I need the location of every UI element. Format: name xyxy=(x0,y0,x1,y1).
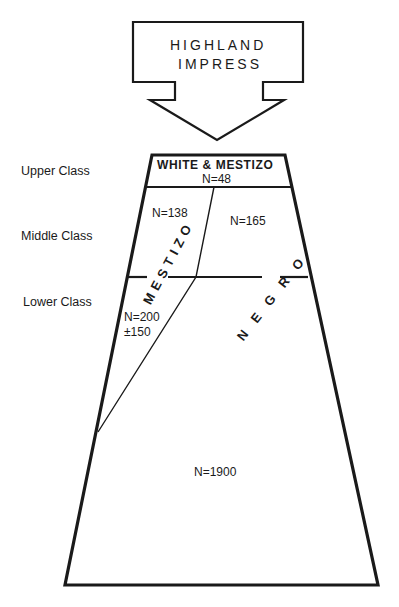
lower-class-label: Lower Class xyxy=(23,295,92,309)
white-mestizo-count: N=48 xyxy=(202,172,231,186)
negro-lower-count: N=1900 xyxy=(194,465,236,479)
upper-class-label: Upper Class xyxy=(21,164,90,178)
mestizo-lower-count: N=200 xyxy=(124,310,160,324)
class-pyramid-outline xyxy=(65,155,378,585)
arrow-label-line2: IMPRESS xyxy=(178,56,262,72)
middle-class-label: Middle Class xyxy=(21,229,93,243)
white-mestizo-label: WHITE & MESTIZO xyxy=(157,158,273,172)
negro-middle-count: N=165 xyxy=(230,214,266,228)
arrow-label-line1: HIGHLAND xyxy=(170,37,266,53)
mestizo-lower-range: ±150 xyxy=(124,325,151,339)
